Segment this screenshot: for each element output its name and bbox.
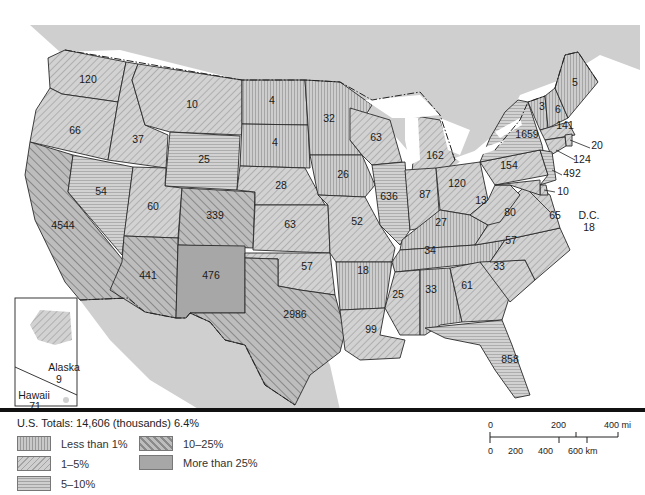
label-vt: 3 <box>539 100 545 112</box>
label-wi: 63 <box>370 131 382 143</box>
label-la: 99 <box>365 323 377 335</box>
scale-mi-200: 200 <box>551 420 566 430</box>
label-ga: 61 <box>461 279 473 291</box>
label-az: 441 <box>139 269 157 281</box>
label-fl: 858 <box>501 353 519 365</box>
us-choropleth-map: 120 66 4544 37 54 10 25 60 339 441 476 4… <box>0 0 645 410</box>
legend-item-10-25: 10–25% <box>139 436 223 451</box>
label-ms: 25 <box>392 288 404 300</box>
legend-item-5-10: 5–10% <box>17 476 95 491</box>
label-tn: 34 <box>424 244 436 256</box>
label-ia: 26 <box>337 168 349 180</box>
label-sc: 33 <box>493 260 505 272</box>
state-ms <box>385 270 420 335</box>
legend-label: 10–25% <box>183 438 223 450</box>
label-al: 33 <box>425 283 437 295</box>
scale-km-400: 400 <box>538 446 553 456</box>
scale-km-0: 0 <box>488 446 493 456</box>
legend-item-more-than-25: More than 25% <box>139 455 258 470</box>
label-in: 87 <box>419 188 431 200</box>
label-mo: 52 <box>351 215 363 227</box>
legend-swatch-solid <box>139 455 173 470</box>
label-nj: 492 <box>563 167 581 179</box>
state-nm <box>176 245 245 318</box>
label-ak: 9 <box>56 373 62 385</box>
state-nd <box>242 80 308 125</box>
legend-item-1-5: 1–5% <box>17 456 89 471</box>
label-tx: 2986 <box>283 308 307 320</box>
scale-mi-400: 400 mi <box>604 420 631 430</box>
label-or: 66 <box>69 124 81 136</box>
label-ut: 60 <box>147 200 159 212</box>
label-dc: 18 <box>583 221 595 233</box>
legend-label: More than 25% <box>183 457 258 469</box>
label-wy: 25 <box>198 153 210 165</box>
legend-label: 5–10% <box>61 478 95 490</box>
scale-mi-0: 0 <box>488 420 493 430</box>
label-ok: 57 <box>301 260 313 272</box>
totals-value: 14,606 (thousands) 6.4% <box>76 417 199 429</box>
label-de: 10 <box>557 185 569 197</box>
totals-label: U.S. Totals: <box>17 417 73 429</box>
label-va: 80 <box>504 206 516 218</box>
label-wv: 13 <box>475 194 487 206</box>
legend-swatch-horizontal-lines <box>17 476 51 491</box>
us-totals: U.S. Totals: 14,606 (thousands) 6.4% <box>17 417 199 429</box>
label-oh: 120 <box>448 177 466 189</box>
label-nv: 54 <box>95 185 107 197</box>
label-nh: 6 <box>555 103 561 115</box>
label-ks: 63 <box>284 218 296 230</box>
label-ma: 141 <box>556 119 574 131</box>
label-nd: 4 <box>269 94 275 106</box>
legend-item-less-than-1: Less than 1% <box>17 436 128 451</box>
label-ny: 1659 <box>515 128 539 140</box>
label-ca: 4544 <box>51 219 75 231</box>
divider-rule <box>0 408 645 412</box>
label-ak-name: Alaska <box>48 361 80 373</box>
legend-swatch-vertical-lines <box>17 436 51 451</box>
label-mi: 162 <box>426 149 444 161</box>
legend-swatch-back-diagonal-lines <box>139 436 173 451</box>
label-dc-name: D.C. <box>579 209 600 221</box>
legend-label: Less than 1% <box>61 438 128 450</box>
label-id: 37 <box>132 133 144 145</box>
scale-bar-lines <box>485 431 635 445</box>
label-md: 65 <box>549 209 561 221</box>
legend-label: 1–5% <box>61 458 89 470</box>
label-mn: 32 <box>323 112 335 124</box>
label-me: 5 <box>572 76 578 88</box>
label-nc: 57 <box>505 234 517 246</box>
label-mt: 10 <box>186 98 198 110</box>
label-ar: 18 <box>357 264 369 276</box>
legend-swatch-diagonal-lines <box>17 456 51 471</box>
label-sd: 4 <box>272 136 278 148</box>
label-co: 339 <box>206 209 224 221</box>
label-nm: 476 <box>202 269 220 281</box>
label-il: 636 <box>380 190 398 202</box>
label-pa: 154 <box>500 159 518 171</box>
label-ct: 124 <box>573 153 591 165</box>
label-ne: 28 <box>275 179 287 191</box>
label-wa: 120 <box>79 73 97 85</box>
label-ri: 20 <box>591 139 603 151</box>
scale-km-600: 600 km <box>568 446 598 456</box>
label-ky: 27 <box>435 216 447 228</box>
scale-bar: 0 200 400 mi 0 200 400 600 km <box>485 420 635 460</box>
scale-km-200: 200 <box>508 446 523 456</box>
